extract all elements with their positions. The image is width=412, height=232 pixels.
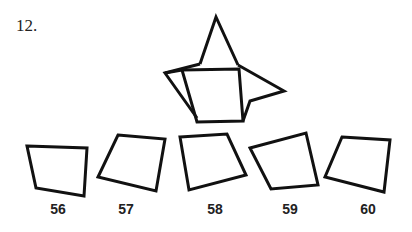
puzzle-diagram bbox=[0, 0, 412, 232]
option-58-shape[interactable] bbox=[180, 134, 246, 190]
top-triangle bbox=[200, 17, 238, 65]
option-59-shape[interactable] bbox=[250, 133, 318, 189]
option-56-shape[interactable] bbox=[27, 146, 87, 196]
option-56-label: 56 bbox=[38, 201, 78, 217]
center-square bbox=[182, 69, 243, 122]
option-57-label: 57 bbox=[106, 201, 146, 217]
option-59-label: 59 bbox=[270, 201, 310, 217]
option-60-label: 60 bbox=[348, 201, 388, 217]
option-60-shape[interactable] bbox=[325, 137, 390, 192]
right-triangle bbox=[238, 65, 284, 121]
option-58-label: 58 bbox=[195, 201, 235, 217]
option-57-shape[interactable] bbox=[98, 135, 165, 191]
main-figure bbox=[165, 17, 284, 122]
